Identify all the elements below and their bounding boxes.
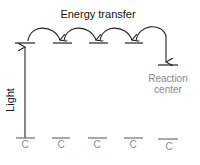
diagram-title: Energy transfer — [60, 8, 136, 20]
ground-label-3: C — [93, 139, 100, 150]
reaction-center-label-1: Reaction — [148, 73, 187, 84]
transfer-arrow-2-icon — [64, 28, 96, 41]
energy-transfer-diagram: Energy transfer Light Reaction center C … — [0, 0, 200, 165]
excited-levels — [15, 43, 178, 65]
ground-label-4: C — [129, 139, 136, 150]
transfer-arrow-1-icon — [28, 28, 60, 41]
energy-transfer-arrows — [28, 27, 166, 62]
light-label: Light — [4, 88, 16, 112]
ground-label-1: C — [21, 139, 28, 150]
transfer-to-reaction-center-arrow-icon — [136, 27, 166, 62]
reaction-center-label-2: center — [154, 84, 182, 95]
transfer-arrow-3-icon — [100, 28, 132, 41]
ground-label-5: C — [165, 141, 172, 152]
ground-label-2: C — [57, 139, 64, 150]
ground-labels: C C C C C — [21, 139, 172, 152]
